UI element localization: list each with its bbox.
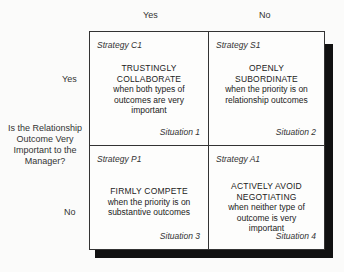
strategy-headline: COLLABORATE (92, 74, 206, 85)
cell-situation-4: Strategy A1 ACTIVELY AVOID NEGOTIATING w… (209, 146, 324, 249)
situation-label: Situation 3 (160, 231, 200, 241)
strategy-description: when the priority is on (211, 84, 322, 95)
strategy-headline: ACTIVELY AVOID (211, 181, 322, 192)
strategy-matrix: Strategy C1 TRUSTINGLY COLLABORATE when … (89, 31, 325, 250)
situation-label: Situation 2 (276, 127, 316, 137)
cell-situation-1: Strategy C1 TRUSTINGLY COLLABORATE when … (90, 32, 209, 146)
strategy-label: Strategy A1 (216, 154, 260, 164)
strategy-description: outcomes are very (92, 95, 206, 106)
strategy-description: substantive outcomes (92, 207, 206, 218)
strategy-label: Strategy C1 (97, 40, 142, 50)
row-axis-question: Is the Relationship Outcome Very Importa… (6, 123, 84, 167)
cell-situation-2: Strategy S1 OPENLY SUBORDINATE when the … (209, 32, 324, 146)
strategy-description: when both types of (92, 84, 206, 95)
column-label-no: No (259, 10, 271, 20)
situation-label: Situation 4 (276, 231, 316, 241)
cell-body: FIRMLY COMPETE when the priority is on s… (92, 186, 206, 218)
strategy-headline: SUBORDINATE (211, 74, 322, 85)
cell-body: OPENLY SUBORDINATE when the priority is … (211, 63, 322, 105)
row-label-yes: Yes (62, 74, 77, 84)
cell-situation-3: Strategy P1 FIRMLY COMPETE when the prio… (90, 146, 209, 249)
strategy-description: when neither type of (211, 202, 322, 213)
strategy-description: relationship outcomes (211, 95, 322, 106)
column-label-yes: Yes (143, 10, 158, 20)
strategy-headline: FIRMLY COMPETE (92, 186, 206, 197)
strategy-headline: TRUSTINGLY (92, 63, 206, 74)
row-label-no: No (64, 207, 76, 217)
strategy-label: Strategy S1 (216, 40, 260, 50)
cell-body: TRUSTINGLY COLLABORATE when both types o… (92, 63, 206, 116)
strategy-label: Strategy P1 (97, 154, 141, 164)
situation-label: Situation 1 (160, 127, 200, 137)
strategy-description: important (92, 105, 206, 116)
strategy-description: when the priority is on (92, 197, 206, 208)
strategy-headline: OPENLY (211, 63, 322, 74)
cell-body: ACTIVELY AVOID NEGOTIATING when neither … (211, 181, 322, 234)
strategy-description: outcome is very (211, 213, 322, 224)
strategy-headline: NEGOTIATING (211, 192, 322, 203)
